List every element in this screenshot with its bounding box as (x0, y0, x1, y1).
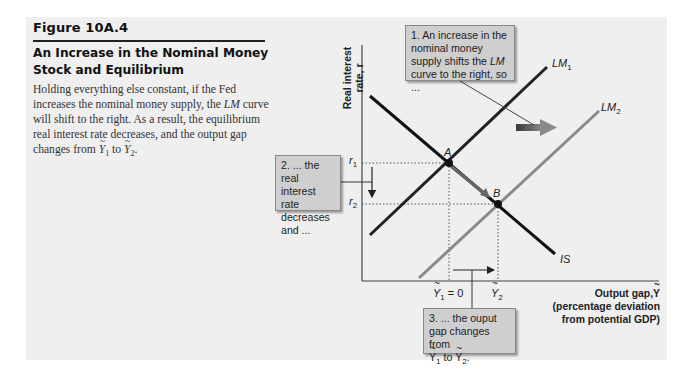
a-to-b-arrow (452, 167, 485, 194)
lm2-curve (419, 111, 599, 278)
lm2-label: LM2 (601, 101, 621, 116)
r2-tick-label: r2 (349, 195, 357, 210)
callout-lm-shift: 1. An increase in the nominal money supp… (405, 25, 515, 81)
y2-tick-label: Y2 (491, 287, 503, 302)
callout1-leader (460, 81, 534, 125)
lm1-curve (370, 67, 547, 235)
point-b (494, 200, 502, 208)
shift-arrow-head (540, 119, 557, 136)
x-axis-title: Output gap,Y (percentage deviation from … (540, 287, 660, 326)
y-axis-title: Real interest rate, r (342, 38, 370, 118)
lm1-label: LM1 (552, 57, 572, 72)
callout-rate-decrease: 2. ... the real interest rate decreases … (275, 155, 341, 211)
callout-output-gap: 3. ... the ouput gap changes from Y1 to … (423, 308, 516, 354)
y1-tick-label: Y1 = 0 (433, 287, 463, 302)
r1-tick-label: r1 (349, 154, 357, 169)
is-label: IS (560, 253, 570, 265)
point-b-label: B (493, 187, 500, 199)
point-a-label: A (444, 146, 451, 158)
shift-arrow-body (516, 124, 542, 131)
point-a (445, 159, 453, 167)
